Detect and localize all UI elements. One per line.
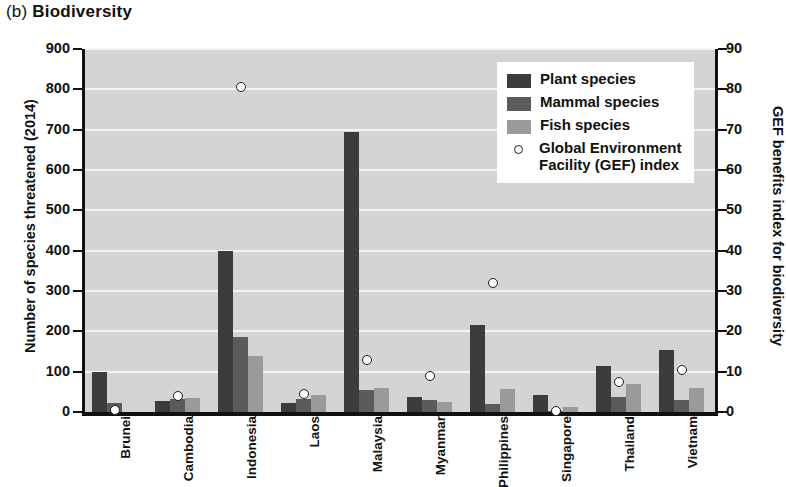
x-axis-label-thailand: Thailand: [622, 416, 637, 472]
bar-plant[interactable]: [344, 132, 359, 412]
y-axis-right-ticks: 0102030405060708090: [726, 49, 766, 412]
x-axis-label-cambodia: Cambodia: [181, 416, 196, 481]
open-circle-marker-icon: [514, 145, 523, 154]
y-axis-right-tick-label: 20: [726, 323, 742, 338]
gef-index-marker[interactable]: [362, 355, 372, 365]
gef-index-marker[interactable]: [299, 389, 309, 399]
y-axis-left-tick: [73, 48, 82, 50]
bar-plant[interactable]: [281, 403, 296, 412]
y-axis-right-tick: [718, 88, 727, 90]
bar-mammal[interactable]: [359, 390, 374, 412]
bar-fish[interactable]: [626, 384, 641, 412]
x-axis-label-myanmar: Myanmar: [433, 416, 448, 475]
gef-index-marker[interactable]: [425, 371, 435, 381]
bar-fish[interactable]: [248, 356, 263, 412]
bar-plant[interactable]: [92, 372, 107, 412]
legend: Plant speciesMammal speciesFish speciesG…: [497, 62, 694, 183]
y-axis-left-tick-label: 400: [14, 243, 70, 258]
gef-index-marker[interactable]: [110, 405, 120, 415]
bar-mammal[interactable]: [233, 337, 248, 412]
page-title: (b) Biodiversity: [6, 2, 132, 22]
y-axis-right-tick-label: 70: [726, 122, 742, 137]
bar-plant[interactable]: [659, 350, 674, 412]
bar-mammal[interactable]: [674, 400, 689, 412]
x-axis-labels: BruneiCambodiaIndonesiaLaosMalaysiaMyanm…: [82, 416, 712, 487]
bar-fish[interactable]: [563, 407, 578, 412]
y-axis-left-tick: [73, 371, 82, 373]
y-axis-right-tick-label: 90: [726, 41, 742, 56]
bar-fish[interactable]: [500, 389, 515, 412]
bar-mammal[interactable]: [611, 397, 626, 412]
y-axis-right-title: GEF benefits index for biodiversity: [770, 46, 786, 406]
gef-index-marker[interactable]: [677, 365, 687, 375]
y-axis-right-tick: [718, 129, 727, 131]
gef-index-marker[interactable]: [488, 278, 498, 288]
y-axis-right-tick: [718, 290, 727, 292]
dark-square-swatch-icon: [507, 74, 531, 88]
bar-fish[interactable]: [311, 395, 326, 412]
legend-item-fish[interactable]: Fish species: [507, 117, 682, 134]
bar-plant[interactable]: [533, 395, 548, 412]
y-axis-left-tick-label: 700: [14, 122, 70, 137]
y-axis-left-tick: [73, 330, 82, 332]
bar-group: [281, 49, 326, 412]
x-axis-label-malaysia: Malaysia: [370, 416, 385, 472]
y-axis-right-tick-label: 40: [726, 243, 742, 258]
y-axis-left-tick-label: 800: [14, 81, 70, 96]
legend-item-mammal[interactable]: Mammal species: [507, 94, 682, 111]
y-axis-right-tick: [718, 48, 727, 50]
y-axis-left-tick: [73, 88, 82, 90]
y-axis-left-tick-label: 0: [14, 404, 70, 419]
x-axis-label-singapore: Singapore: [559, 416, 574, 482]
bar-group: [407, 49, 452, 412]
bar-fish[interactable]: [374, 388, 389, 412]
y-axis-left-tick: [73, 129, 82, 131]
bar-plant[interactable]: [596, 366, 611, 412]
y-axis-right-tick-label: 10: [726, 364, 742, 379]
y-axis-right-tick-label: 30: [726, 283, 742, 298]
bar-plant[interactable]: [407, 397, 422, 412]
legend-label: Mammal species: [540, 94, 659, 111]
gef-index-marker[interactable]: [236, 82, 246, 92]
y-axis-left-tick: [73, 209, 82, 211]
panel-title-text: Biodiversity: [32, 2, 132, 21]
y-axis-right-tick: [718, 209, 727, 211]
legend-label: Fish species: [540, 117, 630, 134]
y-axis-left-tick-label: 600: [14, 162, 70, 177]
bar-plant[interactable]: [218, 251, 233, 412]
bar-fish[interactable]: [689, 388, 704, 412]
y-axis-left-tick: [73, 250, 82, 252]
legend-item-plant[interactable]: Plant species: [507, 71, 682, 88]
y-axis-left-tick: [73, 411, 82, 413]
x-axis-label-laos: Laos: [307, 416, 322, 448]
y-axis-right-tick: [718, 250, 727, 252]
y-axis-left-tick: [73, 290, 82, 292]
gef-index-marker[interactable]: [614, 377, 624, 387]
y-axis-left-tick-label: 900: [14, 41, 70, 56]
y-axis-right-tick-label: 80: [726, 81, 742, 96]
y-axis-left-tick-label: 100: [14, 364, 70, 379]
x-axis-label-philippines: Philippines: [496, 416, 511, 487]
y-axis-right-tick-label: 50: [726, 202, 742, 217]
y-axis-right-tick: [718, 371, 727, 373]
legend-label: Global Environment Facility (GEF) index: [539, 140, 682, 174]
bar-mammal[interactable]: [485, 404, 500, 412]
gef-index-marker[interactable]: [551, 406, 561, 416]
bar-mammal[interactable]: [296, 399, 311, 412]
bar-plant[interactable]: [470, 325, 485, 412]
bar-plant[interactable]: [155, 401, 170, 412]
x-axis-label-vietnam: Vietnam: [685, 416, 700, 468]
bar-fish[interactable]: [185, 398, 200, 412]
y-axis-right-tick: [718, 411, 727, 413]
y-axis-right-tick: [718, 330, 727, 332]
light-square-swatch-icon: [507, 120, 531, 134]
y-axis-right-tick-label: 0: [726, 404, 734, 419]
bar-mammal[interactable]: [422, 400, 437, 412]
legend-item-gef[interactable]: Global Environment Facility (GEF) index: [507, 140, 682, 174]
panel-tag: (b): [6, 2, 27, 21]
legend-label: Plant species: [540, 71, 636, 88]
gef-index-marker[interactable]: [173, 391, 183, 401]
medium-square-swatch-icon: [507, 97, 531, 111]
bar-fish[interactable]: [437, 402, 452, 412]
x-axis-label-indonesia: Indonesia: [244, 416, 259, 479]
